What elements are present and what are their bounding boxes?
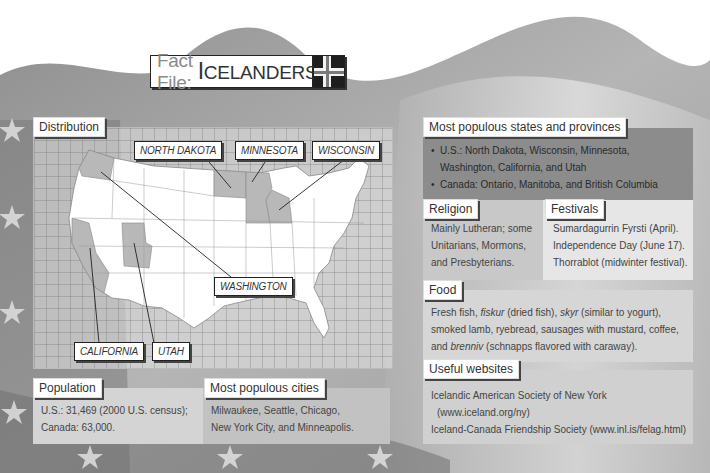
map-label-washington: WASHINGTON [214,277,293,296]
cities-heading: Most populous cities [204,378,325,398]
website-line: Icelandic American Society of New York [431,387,693,404]
population-line: U.S.: 31,469 (2000 U.S. census); [41,402,203,419]
food-box: Fresh fish, fiskur (dried fish), skyr (s… [423,290,693,362]
map-label-wisconsin: WISCONSIN [312,141,380,160]
religion-heading: Religion [423,199,478,219]
website-line: (www.iceland.org/ny) [431,404,693,421]
map-label-california: CALIFORNIA [74,342,144,361]
distribution-map: NORTH DAKOTA MINNESOTA WISCONSIN WASHING… [33,127,393,369]
map-label-minnesota: MINNESOTA [235,141,304,160]
websites-heading: Useful websites [423,359,519,379]
title-main: ICELANDERS [198,58,318,85]
festivals-heading: Festivals [545,199,604,219]
distribution-heading: Distribution [33,117,105,137]
states-list: U.S.: North Dakota, Wisconsin, Minnesota… [431,142,685,193]
iceland-flag-icon [313,55,345,88]
food-heading: Food [423,280,462,300]
cities-line: New York City, and Minneapolis. [211,419,390,436]
map-label-utah: UTAH [152,342,190,361]
states-item-us: U.S.: North Dakota, Wisconsin, Minnesota… [431,142,685,176]
states-box: U.S.: North Dakota, Wisconsin, Minnesota… [423,128,693,200]
states-item-canada: Canada: Ontario, Manitoba, and British C… [431,176,685,193]
website-line: Iceland-Canada Friendship Society (www.i… [431,421,693,438]
us-map-image [34,128,393,369]
websites-box: Icelandic American Society of New York (… [423,370,693,444]
population-heading: Population [33,378,102,398]
population-line: Canada: 63,000. [41,419,203,436]
states-heading: Most populous states and provinces [423,117,626,137]
title-prefix: Fact File: [157,50,193,94]
cities-line: Milwaukee, Seattle, Chicago, [211,402,390,419]
page-title: Fact File: ICELANDERS [150,55,313,88]
washington-state [79,150,114,180]
map-label-north-dakota: NORTH DAKOTA [134,141,222,160]
